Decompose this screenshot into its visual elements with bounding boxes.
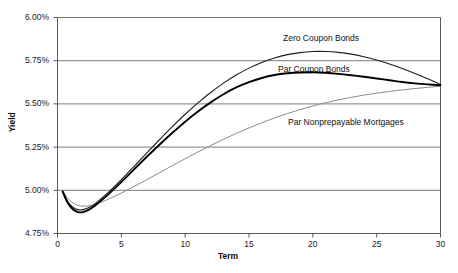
x-tick-label: 0 — [43, 240, 73, 249]
y-axis-ticks — [54, 18, 58, 234]
y-tick-label: 5.75% — [7, 56, 49, 65]
series-label-par-coupon-bonds: Par Coupon Bonds — [278, 65, 350, 74]
series-line-par-coupon-bonds — [63, 72, 441, 212]
x-axis-ticks — [58, 234, 441, 238]
y-axis-title: Yield — [8, 99, 17, 145]
y-tick-label: 4.75% — [7, 229, 49, 238]
series-lines — [63, 51, 441, 212]
series-label-zero-coupon-bonds: Zero Coupon Bonds — [283, 34, 359, 43]
x-tick-label: 20 — [298, 240, 328, 249]
y-tick-label: 5.00% — [7, 186, 49, 195]
y-tick-label: 6.00% — [7, 13, 49, 22]
x-tick-label: 15 — [234, 240, 264, 249]
yield-curve-chart: 4.75%5.00%5.25%5.50%5.75%6.00% 051015202… — [0, 0, 458, 273]
series-line-zero-coupon-bonds — [63, 51, 441, 210]
gridlines — [58, 18, 441, 191]
x-tick-label: 10 — [170, 240, 200, 249]
x-tick-label: 25 — [362, 240, 392, 249]
x-tick-label: 30 — [426, 240, 456, 249]
x-tick-label: 5 — [106, 240, 136, 249]
x-axis-title: Term — [208, 252, 248, 261]
series-label-par-nonprepayable-mortgages: Par Nonprepayable Mortgages — [288, 118, 404, 127]
plot-canvas — [0, 0, 458, 273]
